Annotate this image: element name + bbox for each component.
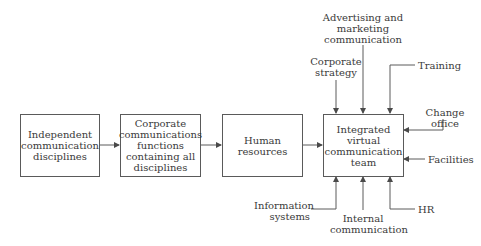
box-label: Independent communication disciplines — [21, 129, 99, 162]
box-human-resources: Human resources — [222, 114, 303, 177]
box-label: Corporate communications functions conta… — [119, 118, 202, 173]
label-advertising: Advertising and marketing communication — [318, 12, 408, 45]
label-internal-communication: Internal communication — [330, 213, 396, 235]
label-hr: HR — [418, 204, 438, 215]
label-corporate-strategy: Corporate strategy — [308, 56, 364, 78]
label-facilities: Facilities — [428, 154, 478, 165]
label-training: Training — [418, 60, 458, 71]
box-label: Integrated virtual communication team — [325, 124, 403, 168]
box-label: Human resources — [238, 135, 288, 157]
label-information-systems: Information systems — [254, 200, 310, 222]
box-independent-disciplines: Independent communication disciplines — [20, 114, 100, 177]
box-corporate-communications: Corporate communications functions conta… — [120, 114, 201, 177]
box-integrated-virtual-team: Integrated virtual communication team — [323, 114, 404, 177]
label-change-office: Change office — [423, 107, 467, 129]
